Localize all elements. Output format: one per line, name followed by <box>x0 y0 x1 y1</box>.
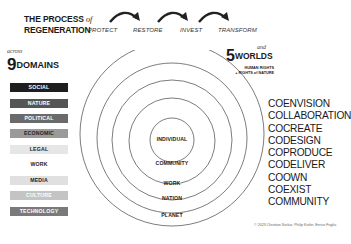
domain-nature: NATURE <box>10 99 68 108</box>
ring-label-planet: PLANET <box>148 212 196 218</box>
domains-prefix: across <box>7 48 22 54</box>
verb-item: COMMUNITY <box>268 196 351 208</box>
step-protect: PROTECT <box>88 27 117 33</box>
verb-item: COEXIST <box>268 184 351 196</box>
worlds-label: WORLDS <box>235 51 273 61</box>
ring-label-community: COMMUNITY <box>148 160 196 166</box>
verb-item: COOWN <box>268 172 351 184</box>
ring-label-individual: INDIVIDUAL <box>148 136 196 142</box>
verb-item: COENVISION <box>268 98 351 110</box>
domains-label: DOMAINS <box>16 60 59 70</box>
worlds-heading: 5WORLDS <box>226 47 273 65</box>
verb-item: COPRODUCE <box>268 147 351 159</box>
worlds-sub-line-2: + RIGHTS of NATURE <box>230 71 274 76</box>
step-transform: TRANSFORM <box>218 27 257 33</box>
curved-arrow-icon <box>155 8 191 26</box>
concentric-worlds-diagram <box>70 50 270 235</box>
curved-arrow-icon <box>107 8 143 26</box>
copyright-notice: © 2023 Christian Sarkar, Philip Kotler, … <box>254 223 336 227</box>
domain-economic: ECONOMIC <box>10 129 68 138</box>
curved-arrow-icon <box>196 8 232 26</box>
verb-item: COLLABORATION <box>268 110 351 122</box>
domain-media: MEDIA <box>10 176 68 185</box>
domains-heading: 9DOMAINS <box>7 55 59 75</box>
step-restore: RESTORE <box>133 27 163 33</box>
ring-label-nation: NATION <box>148 195 196 201</box>
worlds-count: 5 <box>226 47 235 64</box>
worlds-subtitle: HUMAN RIGHTS + RIGHTS of NATURE <box>230 66 274 76</box>
verb-item: CODELIVER <box>268 159 351 171</box>
domain-work: WORK <box>10 160 68 169</box>
domain-social: SOCIAL <box>10 83 68 92</box>
verb-item: CODESIGN <box>268 135 351 147</box>
domain-legal: LEGAL <box>10 145 68 154</box>
title-line-1: THE PROCESS <box>24 14 84 24</box>
verbs-list: COENVISION COLLABORATION COCREATE CODESI… <box>268 98 351 209</box>
domain-culture: CULTURE <box>10 191 68 200</box>
ring-label-work: WORK <box>148 180 196 186</box>
title-line-2: REGENERATION <box>24 25 92 35</box>
verb-item: COCREATE <box>268 123 351 135</box>
diagram-title: THE PROCESS of REGENERATION <box>24 14 92 35</box>
domain-technology: TECHNOLOGY <box>10 207 68 216</box>
domain-political: POLITICAL <box>10 114 68 123</box>
title-of: of <box>86 15 92 24</box>
step-invest: INVEST <box>180 27 202 33</box>
